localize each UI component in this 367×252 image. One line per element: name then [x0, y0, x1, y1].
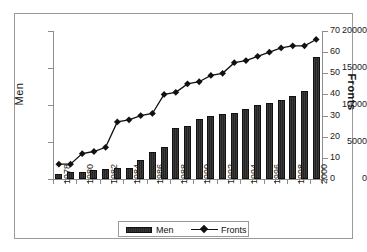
x-tick-label: 2000	[320, 164, 329, 184]
y-tick-right	[323, 137, 328, 138]
bar	[196, 119, 203, 179]
bar	[79, 172, 86, 179]
x-tick	[217, 180, 218, 184]
legend-swatch-men	[126, 227, 152, 233]
y-axis-title-left: Men	[13, 83, 25, 106]
x-tick	[123, 180, 124, 184]
chart-legend: Men Fronts	[118, 221, 249, 237]
bar	[242, 109, 249, 179]
bar	[114, 168, 121, 179]
legend-label-men: Men	[156, 226, 174, 235]
y-tick-right	[323, 94, 328, 95]
x-tick	[100, 180, 101, 184]
bar	[266, 103, 273, 179]
bar	[254, 105, 261, 179]
bar	[301, 91, 308, 179]
y-tick-right	[323, 116, 328, 117]
x-tick	[147, 180, 148, 184]
y-tick-right	[323, 158, 328, 159]
y-tick-left	[48, 68, 53, 69]
y-tick-right	[323, 31, 328, 32]
bar	[126, 168, 133, 179]
y-tick-label-right: 50	[330, 68, 350, 77]
y-tick-label-right: 0	[330, 174, 350, 183]
bar	[278, 100, 285, 179]
legend-label-fronts: Fronts	[221, 226, 247, 235]
y-tick-left	[48, 142, 53, 143]
bar	[137, 160, 144, 179]
bar	[231, 113, 238, 179]
bar	[161, 147, 168, 179]
y-tick-right	[323, 52, 328, 53]
y-tick-label-left: 10000	[321, 100, 367, 109]
y-tick-label-right: 60	[330, 47, 350, 56]
bar	[289, 96, 296, 179]
y-tick-label-right: 10	[330, 153, 350, 162]
bar	[219, 114, 226, 179]
y-tick-label-right: 20	[330, 132, 350, 141]
y-tick-label-right: 30	[330, 111, 350, 120]
bar	[313, 57, 320, 179]
x-tick	[287, 180, 288, 184]
y-tick-left	[48, 31, 53, 32]
x-tick	[264, 180, 265, 184]
bar	[67, 172, 74, 179]
x-tick	[240, 180, 241, 184]
x-tick	[310, 180, 311, 184]
bar	[172, 128, 179, 179]
bar	[207, 116, 214, 179]
bar	[90, 170, 97, 179]
bar	[102, 169, 109, 179]
x-tick	[53, 180, 54, 184]
bar	[149, 152, 156, 179]
y-tick-right	[323, 73, 328, 74]
x-tick	[76, 180, 77, 184]
bar	[184, 126, 191, 179]
x-tick	[193, 180, 194, 184]
chart-container: Men Fronts 05000100001500020000 01020304…	[0, 0, 367, 252]
x-tick	[170, 180, 171, 184]
bar	[55, 174, 62, 179]
y-tick-left	[48, 105, 53, 106]
y-tick-label-right: 70	[330, 26, 350, 35]
y-axis-left-line	[53, 31, 54, 179]
legend-diamond-icon	[200, 225, 208, 233]
y-tick-label-right: 40	[330, 89, 350, 98]
